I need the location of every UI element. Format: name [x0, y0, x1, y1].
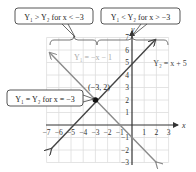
x-tick: −6 [55, 128, 63, 137]
y-tick: 4 [125, 71, 129, 80]
y-tick: 1 [125, 108, 129, 117]
x-tick: 3 [167, 128, 171, 137]
point-label: (−3, 2) [88, 83, 110, 92]
x-tick: −3 [91, 128, 99, 137]
y-tick: −1 [121, 133, 129, 142]
x-tick: −2 [104, 128, 112, 137]
x-tick: 2 [155, 128, 159, 137]
x-tick-labels: −7 −6 −5 −4 −3 −2 −1 1 2 3 [43, 128, 171, 137]
x-tick: −5 [67, 128, 75, 137]
x-axis-label: x [181, 121, 186, 130]
graph-diagram: −7 −6 −5 −4 −3 −2 −1 1 2 3 7 6 5 4 3 2 1… [0, 0, 196, 172]
y-tick: 6 [125, 46, 129, 55]
y-axis-label: y [130, 25, 135, 34]
callout-equal-text: Y₁ = Y₂ for x = −3 [15, 95, 75, 104]
y-tick: 2 [125, 96, 129, 105]
intersection-point [93, 97, 99, 103]
x-tick: 1 [142, 128, 146, 137]
y-tick: −2 [121, 146, 129, 155]
x-tick: −4 [79, 128, 87, 137]
callout-right-text: Y₁ < Y₂ for x > −3 [111, 13, 171, 22]
y-tick: 7 [125, 33, 129, 42]
line-y1 [50, 53, 156, 163]
y-tick: 3 [125, 83, 129, 92]
y-tick: −3 [121, 158, 129, 167]
line-y1-label: Y₁ = −x − 1 [74, 53, 112, 62]
callout-left-text: Y₁ > Y₂ for x < −3 [24, 13, 84, 22]
x-tick: −7 [43, 128, 51, 137]
line-y2-label: Y₂ = x + 5 [153, 59, 187, 68]
y-tick: 5 [125, 58, 129, 67]
